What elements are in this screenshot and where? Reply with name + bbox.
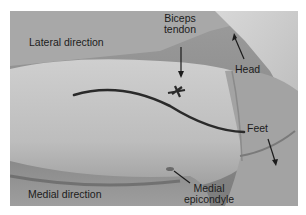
label-head: Head: [235, 64, 260, 75]
label-biceps-tendon: Biceps tendon: [160, 13, 200, 35]
arm-photograph: Lateral direction Biceps tendon Head Fee…: [10, 11, 298, 206]
label-feet: Feet: [247, 123, 268, 134]
label-lateral-direction: Lateral direction: [29, 37, 104, 48]
label-epicondyle-line2: epicondyle: [181, 194, 237, 205]
epicondyle-mark: [166, 167, 174, 171]
label-biceps-line2: tendon: [160, 24, 200, 35]
label-medial-epicondyle: Medial epicondyle: [181, 183, 237, 205]
label-medial-direction: Medial direction: [28, 189, 102, 200]
